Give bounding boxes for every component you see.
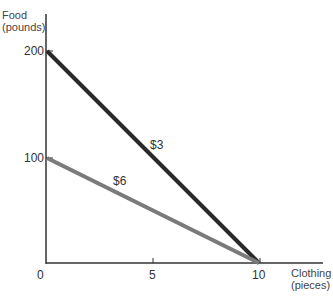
y-tick-label-200: 200 xyxy=(24,44,44,58)
chart-plot xyxy=(0,0,333,298)
budget-line-6 xyxy=(47,158,259,263)
y-axis-label-line2: (pounds) xyxy=(2,21,45,33)
x-axis-label-line2: (pieces) xyxy=(291,279,330,291)
series-label-6: $6 xyxy=(113,174,126,188)
y-tick-label-100: 100 xyxy=(24,151,44,165)
y-axis-label-line1: Food xyxy=(2,9,27,21)
budget-line-3 xyxy=(47,51,259,263)
x-axis-label-line1: Clothing xyxy=(291,267,331,279)
x-tick-label-5: 5 xyxy=(149,268,156,282)
series-label-3: $3 xyxy=(150,138,163,152)
x-tick-label-10: 10 xyxy=(252,268,265,282)
x-tick-label-0: 0 xyxy=(37,268,44,282)
